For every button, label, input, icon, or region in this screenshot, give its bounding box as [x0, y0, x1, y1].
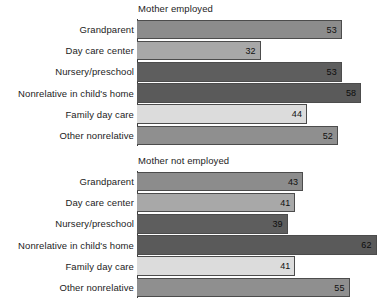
chart-row: Day care center 32	[0, 40, 384, 61]
panel-mother-not-employed: Mother not employed Grandparent 43 Day c…	[0, 152, 384, 303]
panel-title-mother-employed: Mother employed	[138, 3, 213, 15]
category-label: Other nonrelative	[59, 277, 134, 298]
category-label: Nursery/preschool	[55, 213, 134, 234]
bar-track: 53	[137, 19, 384, 40]
chart-row: Grandparent 53	[0, 19, 384, 40]
bar: 53	[137, 62, 342, 82]
bar-track: 44	[137, 104, 384, 125]
chart-row: Day care center 41	[0, 192, 384, 213]
bar: 55	[137, 278, 350, 298]
bar-value-label: 55	[334, 279, 344, 299]
category-label: Other nonrelative	[59, 125, 134, 146]
bar: 41	[137, 256, 295, 276]
chart-row: Other nonrelative 55	[0, 277, 384, 298]
bar: 41	[137, 193, 295, 213]
bar-value-label: 39	[272, 215, 282, 235]
category-label: Nonrelative in child's home	[18, 235, 134, 256]
bar-track: 53	[137, 61, 384, 82]
chart-row: Family day care 44	[0, 104, 384, 125]
category-label: Nonrelative in child's home	[18, 83, 134, 104]
bar-value-label: 53	[327, 63, 337, 83]
panel-mother-employed: Mother employed Grandparent 53 Day care …	[0, 0, 384, 152]
chart-row: Family day care 41	[0, 256, 384, 277]
category-label: Family day care	[65, 256, 134, 277]
bar-track: 32	[137, 40, 384, 61]
chart-row: Grandparent 43	[0, 171, 384, 192]
bar-value-label: 32	[245, 42, 255, 62]
category-label: Grandparent	[80, 171, 134, 192]
bar-value-label: 43	[288, 173, 298, 193]
bar-track: 62	[137, 235, 384, 256]
bar: 39	[137, 214, 288, 234]
bar: 44	[137, 104, 307, 124]
bar-track: 41	[137, 192, 384, 213]
bar-track: 41	[137, 256, 384, 277]
bar: 53	[137, 20, 342, 40]
bar: 58	[137, 83, 361, 103]
category-label: Family day care	[65, 104, 134, 125]
bar-value-label: 53	[327, 21, 337, 41]
category-label: Grandparent	[80, 19, 134, 40]
chart-row: Nonrelative in child's home 58	[0, 83, 384, 104]
category-label: Day care center	[65, 192, 134, 213]
chart-row: Nursery/preschool 53	[0, 61, 384, 82]
bar-track: 58	[137, 83, 384, 104]
bar-value-label: 44	[292, 105, 302, 125]
category-label: Day care center	[65, 40, 134, 61]
plot-area-mother-employed: Grandparent 53 Day care center 32 Nurser…	[0, 19, 384, 146]
bar: 43	[137, 172, 303, 192]
bar: 62	[137, 235, 377, 255]
bar-track: 52	[137, 125, 384, 146]
bar-value-label: 58	[346, 84, 356, 104]
panel-title-mother-not-employed: Mother not employed	[138, 155, 229, 167]
plot-area-mother-not-employed: Grandparent 43 Day care center 41 Nurser…	[0, 171, 384, 298]
two-panel-bar-chart-figure: Mother employed Grandparent 53 Day care …	[0, 0, 384, 303]
bar: 32	[137, 41, 261, 61]
bar-value-label: 52	[323, 127, 333, 147]
bar-track: 55	[137, 277, 384, 298]
chart-row: Other nonrelative 52	[0, 125, 384, 146]
bar-value-label: 62	[361, 236, 371, 256]
chart-row: Nursery/preschool 39	[0, 213, 384, 234]
category-label: Nursery/preschool	[55, 61, 134, 82]
chart-row: Nonrelative in child's home 62	[0, 235, 384, 256]
bar-track: 43	[137, 171, 384, 192]
bar-value-label: 41	[280, 257, 290, 277]
bar-track: 39	[137, 213, 384, 234]
bar: 52	[137, 126, 338, 146]
bar-value-label: 41	[280, 194, 290, 214]
